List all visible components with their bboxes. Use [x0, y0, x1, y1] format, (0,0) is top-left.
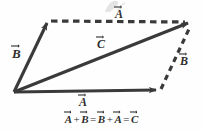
equation-term-c: C [131, 110, 138, 125]
vector-arrow-overbar-icon [97, 110, 104, 114]
term-text: A [65, 113, 72, 125]
label-text: A [79, 95, 87, 109]
equation-operator-equals-1: = [89, 113, 98, 125]
vector-diagram-figure: B A C A [0, 0, 203, 131]
label-vector-a-top: A [115, 5, 123, 20]
vector-arrow-overbar-icon [113, 110, 120, 114]
equation-term-b2: B [98, 110, 105, 125]
label-vector-b-left: B [12, 44, 21, 60]
term-text: B [81, 113, 88, 125]
vector-arrow-overbar-icon [80, 110, 87, 114]
term-text: A [114, 113, 121, 125]
vector-equation: A + B = B + A = C [0, 110, 203, 125]
vector-arrow-overbar-icon [64, 110, 71, 114]
equation-term-b1: B [81, 110, 88, 125]
label-text: B [180, 54, 188, 68]
label-text: A [115, 7, 123, 21]
label-vector-c-middle: C [97, 35, 105, 50]
equation-operator-plus-1: + [72, 113, 81, 125]
equation-operator-plus-2: + [105, 113, 114, 125]
term-text: B [98, 113, 105, 125]
equation-term-a2: A [114, 110, 121, 125]
vector-a-solid-line [14, 90, 156, 92]
equation-term-a1: A [65, 110, 72, 125]
label-vector-b-right: B [180, 52, 188, 67]
vector-c-resultant-line [14, 23, 188, 92]
equation-operator-equals-2: = [122, 113, 131, 125]
vector-a-dashed-line [51, 21, 185, 22]
label-text: C [97, 37, 105, 51]
label-vector-a-bottom: A [79, 93, 87, 108]
term-text: C [131, 113, 138, 125]
label-text: B [12, 46, 21, 61]
vector-arrow-overbar-icon [130, 110, 137, 114]
